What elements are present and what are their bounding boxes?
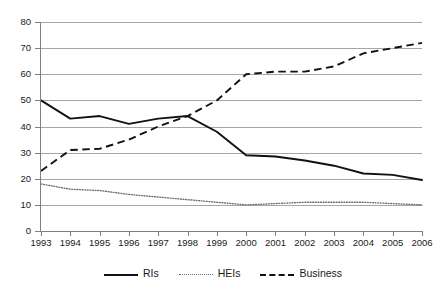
x-axis-label-1996: 1996 — [118, 238, 139, 248]
line-chart-figure: 0102030405060708019931994199519961997199… — [0, 0, 446, 299]
x-axis-label-2004: 2004 — [353, 238, 374, 248]
x-tick-1994 — [70, 232, 71, 236]
y-axis-label-70: 70 — [5, 43, 31, 53]
x-tick-1995 — [100, 232, 101, 236]
series-line-business — [41, 43, 422, 171]
y-tick-60 — [35, 74, 40, 75]
x-axis-label-1995: 1995 — [89, 238, 110, 248]
y-axis-label-80: 80 — [5, 17, 31, 27]
x-tick-2000 — [246, 232, 247, 236]
y-tick-40 — [35, 127, 40, 128]
x-axis-label-1997: 1997 — [148, 238, 169, 248]
x-tick-1997 — [158, 232, 159, 236]
x-axis-label-1999: 1999 — [206, 238, 227, 248]
x-tick-1998 — [188, 232, 189, 236]
y-tick-70 — [35, 48, 40, 49]
legend-label: RIs — [143, 268, 159, 279]
x-axis-line — [41, 231, 423, 232]
series-layer — [41, 22, 422, 231]
y-tick-80 — [35, 22, 40, 23]
y-axis-label-20: 20 — [5, 174, 31, 184]
x-axis-label-2003: 2003 — [323, 238, 344, 248]
x-axis-label-1993: 1993 — [30, 238, 51, 248]
x-tick-2006 — [422, 232, 423, 236]
y-tick-10 — [35, 205, 40, 206]
y-axis-label-10: 10 — [5, 200, 31, 210]
series-line-ris — [41, 100, 422, 180]
y-axis-label-30: 30 — [5, 148, 31, 158]
legend-item-business[interactable]: Business — [260, 268, 342, 279]
y-tick-30 — [35, 153, 40, 154]
x-axis-label-1994: 1994 — [60, 238, 81, 248]
x-tick-2004 — [363, 232, 364, 236]
x-axis-label-2000: 2000 — [236, 238, 257, 248]
x-tick-2001 — [275, 232, 276, 236]
y-axis-label-50: 50 — [5, 95, 31, 105]
chart-legend: RIsHEIsBusiness — [0, 268, 446, 279]
legend-item-heis[interactable]: HEIs — [179, 268, 241, 279]
x-axis-label-2001: 2001 — [265, 238, 286, 248]
x-axis-label-1998: 1998 — [177, 238, 198, 248]
x-tick-2003 — [334, 232, 335, 236]
y-axis-line — [40, 22, 41, 232]
legend-swatch-solid-icon — [104, 268, 138, 279]
x-tick-1993 — [41, 232, 42, 236]
legend-label: Business — [299, 268, 342, 279]
y-axis-label-40: 40 — [5, 122, 31, 132]
x-axis-label-2002: 2002 — [294, 238, 315, 248]
x-tick-2002 — [305, 232, 306, 236]
y-tick-0 — [35, 231, 40, 232]
series-line-heis — [41, 184, 422, 205]
y-tick-20 — [35, 179, 40, 180]
plot-area — [41, 22, 422, 231]
legend-item-ris[interactable]: RIs — [104, 268, 159, 279]
x-axis-label-2005: 2005 — [382, 238, 403, 248]
legend-swatch-dashed-icon — [260, 268, 294, 279]
x-axis-label-2006: 2006 — [411, 238, 432, 248]
legend-label: HEIs — [218, 268, 241, 279]
x-tick-1999 — [217, 232, 218, 236]
y-axis-label-0: 0 — [5, 226, 31, 236]
y-axis-label-60: 60 — [5, 69, 31, 79]
y-tick-50 — [35, 100, 40, 101]
legend-swatch-dotted-icon — [179, 268, 213, 279]
x-tick-2005 — [393, 232, 394, 236]
x-tick-1996 — [129, 232, 130, 236]
